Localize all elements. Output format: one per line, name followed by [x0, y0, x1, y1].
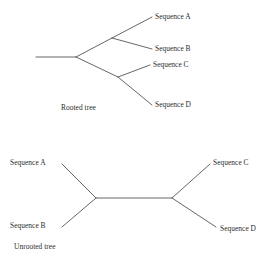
rooted-leaf-label-sequence-b: Sequence B	[155, 45, 191, 52]
branch-internal-ab-to-tip-a	[112, 17, 152, 38]
unrooted-tree-branches	[62, 164, 216, 227]
branch-root-to-internal-ab	[76, 38, 112, 57]
branch-left-node-to-tip-a	[62, 164, 96, 198]
unrooted-leaf-label-sequence-c: Sequence C	[213, 159, 249, 166]
branch-internal-ab-to-tip-b	[112, 38, 152, 49]
branch-root-to-internal-cd	[76, 57, 118, 77]
rooted-tree-branches	[36, 17, 152, 105]
rooted-leaf-label-sequence-d: Sequence D	[155, 101, 191, 108]
branch-right-node-to-tip-d	[172, 198, 216, 227]
branch-internal-cd-to-tip-d	[118, 77, 152, 105]
unrooted-tree-caption: Unrooted tree	[14, 243, 56, 250]
rooted-leaf-label-sequence-c: Sequence C	[153, 61, 189, 68]
branch-left-node-to-tip-b	[62, 198, 96, 227]
unrooted-leaf-label-sequence-b: Sequence B	[10, 222, 46, 229]
branch-right-node-to-tip-c	[172, 164, 210, 198]
branch-internal-cd-to-tip-c	[118, 65, 150, 77]
rooted-leaf-label-sequence-a: Sequence A	[155, 13, 191, 20]
rooted-tree-caption: Rooted tree	[61, 104, 96, 111]
unrooted-leaf-label-sequence-a: Sequence A	[10, 159, 46, 166]
unrooted-leaf-label-sequence-d: Sequence D	[220, 225, 256, 232]
phylogenetic-tree-figure: Sequence A Sequence B Sequence C Sequenc…	[0, 0, 276, 261]
